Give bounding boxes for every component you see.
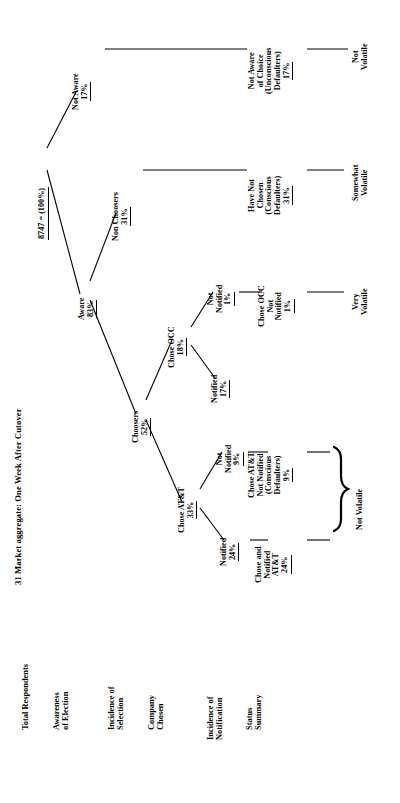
- node-att-not-notified: Not Notified 9%: [216, 445, 244, 473]
- node-occ-notified: Notified 17%: [211, 375, 230, 403]
- summary-value: 9%: [283, 468, 294, 482]
- summary-value: 1%: [284, 299, 295, 313]
- node-chose-att: Chose AT&T 33%: [178, 487, 197, 533]
- node-value: 17%: [220, 380, 231, 398]
- row-label-incidence-of-selection: Incidence of Selection: [108, 687, 126, 731]
- node-root-label: 8747 = (100%): [38, 187, 49, 240]
- volatility-label-line: Volatile: [361, 288, 370, 315]
- node-chose-occ: Chose OCC 18%: [168, 326, 187, 368]
- row-label-line: Selection: [117, 687, 126, 731]
- row-label-line: of Election: [62, 692, 71, 730]
- diagram-page: 31 Market aggregate: One Week After Cuto…: [0, 0, 400, 803]
- node-value: 31%: [121, 207, 132, 225]
- node-occ-not-notified: Not Notified 1%: [207, 285, 235, 313]
- node-value: 24%: [229, 543, 240, 561]
- summary-att-notified: Chose and Notified AT&T 24%: [255, 546, 292, 583]
- node-value: 1%: [224, 292, 235, 306]
- summary-unconscious-defaulters: Not Aware of Choice (Unconscious Default…: [248, 48, 293, 94]
- row-label-company-chosen: Company Chosen: [148, 695, 166, 730]
- volatility-label-line: Volatile: [361, 165, 370, 201]
- row-label-line: Notification: [216, 697, 225, 741]
- node-not-aware: Not Aware 17%: [72, 73, 91, 110]
- node-att-notified: Notified 24%: [220, 538, 239, 566]
- node-value: 18%: [177, 338, 188, 356]
- brace-label: Not Volatile: [355, 489, 364, 530]
- summary-value: 24%: [281, 556, 292, 574]
- node-non-choosers: Non Choosers 31%: [112, 192, 131, 241]
- node-value: 33%: [187, 501, 198, 519]
- tree-connectors: [0, 0, 400, 803]
- node-value: 83%: [87, 300, 98, 318]
- node-aware: Aware 83%: [78, 298, 97, 320]
- row-label-line: Summary: [255, 695, 264, 730]
- summary-conscious-defaulters: Have Not Chosen (Conscious Defaulters) 3…: [248, 176, 293, 215]
- volatility-not-volatile-top: Not Volatile: [352, 43, 369, 70]
- summary-value: 17%: [283, 62, 294, 80]
- row-label-total-respondents: Total Respondents: [22, 664, 31, 730]
- row-label-line: Chosen: [157, 695, 166, 730]
- page-title: 31 Market aggregate: One Week After Cuto…: [14, 408, 23, 585]
- node-value: 17%: [81, 82, 92, 100]
- summary-occ-not-notified: Chose OCC Not Notified 1%: [258, 285, 295, 327]
- volatility-very-volatile: Very Volatile: [352, 288, 369, 315]
- node-choosers: Choosers 52%: [132, 411, 151, 443]
- summary-value: 31%: [283, 186, 294, 204]
- row-label-status-summary: Status Summary: [246, 695, 264, 730]
- volatility-not-volatile-brace-label: Not Volatile: [356, 489, 365, 530]
- volatility-somewhat-volatile: Somewhat Volatile: [352, 165, 369, 201]
- row-label-awareness-of-election: Awareness of Election: [53, 692, 71, 730]
- node-value: 9%: [233, 452, 244, 466]
- row-label-incidence-of-notification: Incidence of Notification: [207, 697, 225, 741]
- node-value: 52%: [141, 418, 152, 436]
- summary-att-not-notified: Chose AT&T Not Notified (Conscious Defau…: [248, 452, 293, 498]
- volatility-label-line: Volatile: [361, 43, 370, 70]
- node-root: 8747 = (100%): [38, 187, 49, 240]
